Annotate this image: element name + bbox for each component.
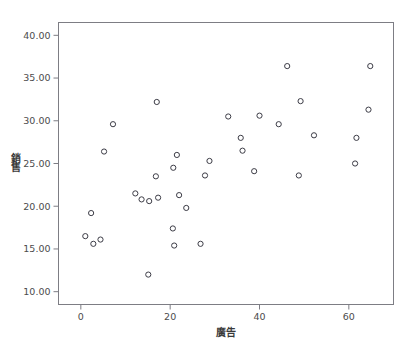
data-point — [174, 152, 179, 157]
data-point — [226, 114, 231, 119]
data-point — [198, 241, 203, 246]
data-point — [240, 148, 245, 153]
data-point — [202, 173, 207, 178]
x-axis-tick-label: 40 — [253, 311, 265, 322]
data-point — [139, 197, 144, 202]
data-point — [154, 99, 159, 104]
data-point — [153, 174, 158, 179]
data-point-series — [83, 63, 373, 277]
data-point — [298, 99, 303, 104]
y-axis: 10.0015.0020.0025.0030.0035.0040.00 — [23, 30, 58, 297]
data-point — [156, 195, 161, 200]
y-axis-tick-label: 20.00 — [23, 201, 50, 212]
data-point — [296, 173, 301, 178]
data-point — [368, 63, 373, 68]
data-point — [83, 234, 88, 239]
data-point — [171, 165, 176, 170]
data-point — [89, 210, 94, 215]
data-point — [98, 237, 103, 242]
data-point — [276, 122, 281, 127]
data-point — [238, 135, 243, 140]
data-point — [285, 63, 290, 68]
data-point — [101, 149, 106, 154]
y-axis-tick-label: 15.00 — [23, 243, 50, 254]
y-axis-tick-label: 30.00 — [23, 115, 50, 126]
data-point — [207, 158, 212, 163]
data-point — [354, 135, 359, 140]
data-point — [91, 241, 96, 246]
data-point — [146, 272, 151, 277]
x-axis-tick-label: 0 — [78, 311, 84, 322]
data-point — [252, 169, 257, 174]
y-axis-title: 銷售 — [11, 152, 21, 173]
data-point — [110, 122, 115, 127]
y-axis-title-char: 售 — [11, 161, 21, 173]
data-point — [366, 107, 371, 112]
y-axis-tick-label: 40.00 — [23, 30, 50, 41]
plot-frame — [59, 23, 394, 305]
data-point — [133, 191, 138, 196]
plot-canvas: 10.0015.0020.0025.0030.0035.0040.0002040… — [0, 0, 414, 350]
data-point — [184, 205, 189, 210]
data-point — [177, 193, 182, 198]
x-axis-tick-label: 60 — [343, 311, 355, 322]
data-point — [147, 199, 152, 204]
y-axis-tick-label: 25.00 — [23, 158, 50, 169]
data-point — [170, 226, 175, 231]
x-axis: 0204060 — [78, 305, 355, 322]
data-point — [352, 161, 357, 166]
y-axis-tick-label: 35.00 — [23, 72, 50, 83]
data-point — [172, 243, 177, 248]
x-axis-title: 廣告 — [215, 326, 236, 338]
y-axis-tick-label: 10.00 — [23, 286, 50, 297]
scatter-plot-figure: 10.0015.0020.0025.0030.0035.0040.0002040… — [0, 0, 414, 350]
x-axis-tick-label: 20 — [164, 311, 176, 322]
data-point — [257, 113, 262, 118]
data-point — [311, 133, 316, 138]
